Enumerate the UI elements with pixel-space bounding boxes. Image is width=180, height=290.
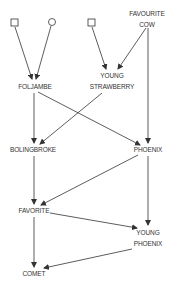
node-young-phoenix: YOUNG PHOENIX — [134, 227, 163, 249]
node-label: STRAWBERRY — [90, 81, 135, 92]
node-favourite-cow: FAVOURITE COW — [129, 8, 164, 30]
node-young-strawberry: YOUNG STRAWBERRY — [90, 70, 135, 92]
node-label: FAVOURITE — [129, 8, 164, 19]
female-circle-icon — [49, 19, 56, 26]
node-label: COW — [129, 19, 164, 30]
node-favorite: FAVORITE — [19, 205, 50, 216]
node-phoenix: PHOENIX — [134, 144, 163, 155]
node-foljambe: FOLJAMBE — [18, 81, 52, 92]
node-label: YOUNG — [134, 227, 163, 238]
node-bolingbroke: BOLINGBROKE — [10, 144, 56, 155]
male-square-icon — [11, 19, 18, 26]
node-comet: COMET — [23, 268, 46, 279]
node-label: PHOENIX — [134, 238, 163, 249]
male-square-icon — [88, 19, 95, 26]
node-label: YOUNG — [90, 70, 135, 81]
